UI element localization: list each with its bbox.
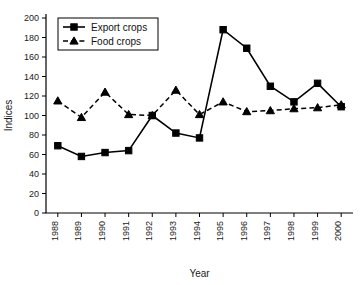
y-tick-label: 40 bbox=[29, 169, 39, 179]
legend-marker-0 bbox=[71, 24, 77, 30]
x-tick-label: 1993 bbox=[168, 221, 178, 241]
x-tick-label: 2000 bbox=[333, 221, 343, 241]
data-point bbox=[55, 143, 61, 149]
x-tick-label: 1996 bbox=[239, 221, 249, 241]
data-point bbox=[54, 97, 62, 104]
line-chart: 020406080100120140160180200Indices198819… bbox=[0, 0, 361, 285]
data-point bbox=[244, 45, 250, 51]
y-tick-label: 200 bbox=[24, 13, 39, 23]
legend: Export cropsFood crops bbox=[58, 18, 158, 50]
y-tick-label: 0 bbox=[34, 208, 39, 218]
x-tick-label: 1999 bbox=[310, 221, 320, 241]
y-tick-label: 100 bbox=[24, 111, 39, 121]
y-tick-label: 120 bbox=[24, 91, 39, 101]
y-tick-label: 140 bbox=[24, 72, 39, 82]
x-axis-title: Year bbox=[189, 268, 210, 279]
data-point bbox=[173, 130, 179, 136]
x-tick-label: 1995 bbox=[215, 221, 225, 241]
data-point bbox=[125, 147, 131, 153]
x-tick-label: 1997 bbox=[262, 221, 272, 241]
y-tick-label: 160 bbox=[24, 52, 39, 62]
x-tick-label: 1989 bbox=[73, 221, 83, 241]
y-axis: 020406080100120140160180200 bbox=[24, 13, 46, 218]
legend-label-0: Export crops bbox=[91, 22, 147, 33]
x-tick-label: 1994 bbox=[192, 221, 202, 241]
y-tick-label: 60 bbox=[29, 150, 39, 160]
x-tick-label: 1991 bbox=[121, 221, 131, 241]
data-point bbox=[291, 99, 297, 105]
x-axis: 1988198919901991199219931994199519961997… bbox=[50, 213, 343, 241]
x-tick-label: 1988 bbox=[50, 221, 60, 241]
chart-container: 020406080100120140160180200Indices198819… bbox=[0, 0, 361, 285]
data-point bbox=[338, 104, 344, 110]
data-point bbox=[78, 153, 84, 159]
data-point bbox=[149, 112, 155, 118]
series-food-crops bbox=[54, 86, 346, 121]
data-point bbox=[267, 83, 273, 89]
x-tick-label: 1992 bbox=[144, 221, 154, 241]
y-tick-label: 180 bbox=[24, 33, 39, 43]
y-tick-label: 20 bbox=[29, 189, 39, 199]
data-point bbox=[196, 135, 202, 141]
data-point bbox=[314, 80, 320, 86]
data-point bbox=[243, 108, 251, 115]
data-point bbox=[172, 86, 180, 93]
legend-label-1: Food crops bbox=[91, 36, 141, 47]
x-tick-label: 1990 bbox=[97, 221, 107, 241]
y-tick-label: 80 bbox=[29, 130, 39, 140]
data-point bbox=[102, 149, 108, 155]
data-point bbox=[219, 98, 227, 105]
x-tick-label: 1998 bbox=[286, 221, 296, 241]
data-point bbox=[220, 27, 226, 33]
data-point bbox=[101, 88, 109, 95]
y-axis-title: Indices bbox=[3, 100, 14, 132]
